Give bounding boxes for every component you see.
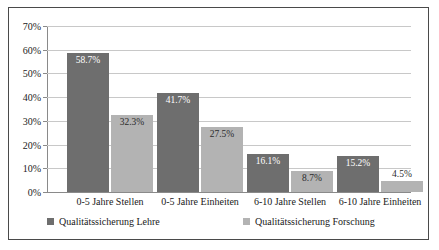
legend-item[interactable]: Qualitätssicherung Lehre [47, 216, 243, 227]
bar[interactable]: 8.7% [291, 171, 333, 192]
y-tick-label: 10% [23, 163, 41, 174]
y-tick-mark [43, 168, 47, 169]
y-tick-label: 30% [23, 115, 41, 126]
bar-group: 41.7%27.5%0-5 Jahre Einheiten [157, 26, 243, 192]
bar-value-label: 32.3% [111, 117, 153, 127]
y-tick-mark [43, 73, 47, 74]
bar-group: 58.7%32.3%0-5 Jahre Stellen [67, 26, 153, 192]
bar-value-label: 58.7% [67, 55, 109, 65]
grouped-bar-chart: 0%10%20%30%40%50%60%70% 58.7%32.3%0-5 Ja… [9, 8, 428, 239]
y-tick-label: 50% [23, 68, 41, 79]
bar-value-label: 15.2% [337, 158, 379, 168]
y-tick-mark [43, 97, 47, 98]
bar[interactable]: 15.2% [337, 156, 379, 192]
y-tick-label: 60% [23, 44, 41, 55]
gridline [47, 192, 411, 193]
legend-swatch-icon [243, 218, 250, 225]
bar-value-label: 4.5% [381, 169, 423, 179]
y-tick-mark [43, 26, 47, 27]
legend-item[interactable]: Qualitätssicherung Forschung [243, 216, 375, 227]
legend-label: Qualitätssicherung Forschung [255, 216, 375, 227]
y-tick-label: 0% [28, 187, 41, 198]
bar[interactable]: 58.7% [67, 53, 109, 192]
bar-value-label: 8.7% [291, 173, 333, 183]
x-category-label: 0-5 Jahre Stellen [61, 196, 159, 207]
x-category-label: 0-5 Jahre Einheiten [151, 196, 249, 207]
y-tick-mark [43, 50, 47, 51]
bar[interactable]: 27.5% [201, 127, 243, 192]
bar-value-label: 41.7% [157, 95, 199, 105]
y-tick-mark [43, 192, 47, 193]
y-tick-label: 20% [23, 139, 41, 150]
chart-frame: 0%10%20%30%40%50%60%70% 58.7%32.3%0-5 Ja… [8, 7, 429, 240]
legend-label: Qualitätssicherung Lehre [59, 216, 160, 227]
plot-area: 0%10%20%30%40%50%60%70% 58.7%32.3%0-5 Ja… [47, 26, 411, 192]
y-axis-line [47, 26, 48, 192]
bar[interactable]: 32.3% [111, 115, 153, 192]
x-category-label: 6-10 Jahre Einheiten [331, 196, 429, 207]
bar-value-label: 27.5% [201, 129, 243, 139]
bar[interactable]: 41.7% [157, 93, 199, 192]
chart-legend: Qualitätssicherung LehreQualitätssicheru… [47, 216, 411, 227]
bar[interactable]: 4.5% [381, 181, 423, 192]
y-tick-mark [43, 145, 47, 146]
x-category-label: 6-10 Jahre Stellen [241, 196, 339, 207]
bar-group: 16.1%8.7%6-10 Jahre Stellen [247, 26, 333, 192]
y-tick-label: 70% [23, 21, 41, 32]
bar-value-label: 16.1% [247, 156, 289, 166]
legend-swatch-icon [47, 218, 54, 225]
y-tick-label: 40% [23, 92, 41, 103]
bar[interactable]: 16.1% [247, 154, 289, 192]
bar-group: 15.2%4.5%6-10 Jahre Einheiten [337, 26, 423, 192]
y-tick-mark [43, 121, 47, 122]
